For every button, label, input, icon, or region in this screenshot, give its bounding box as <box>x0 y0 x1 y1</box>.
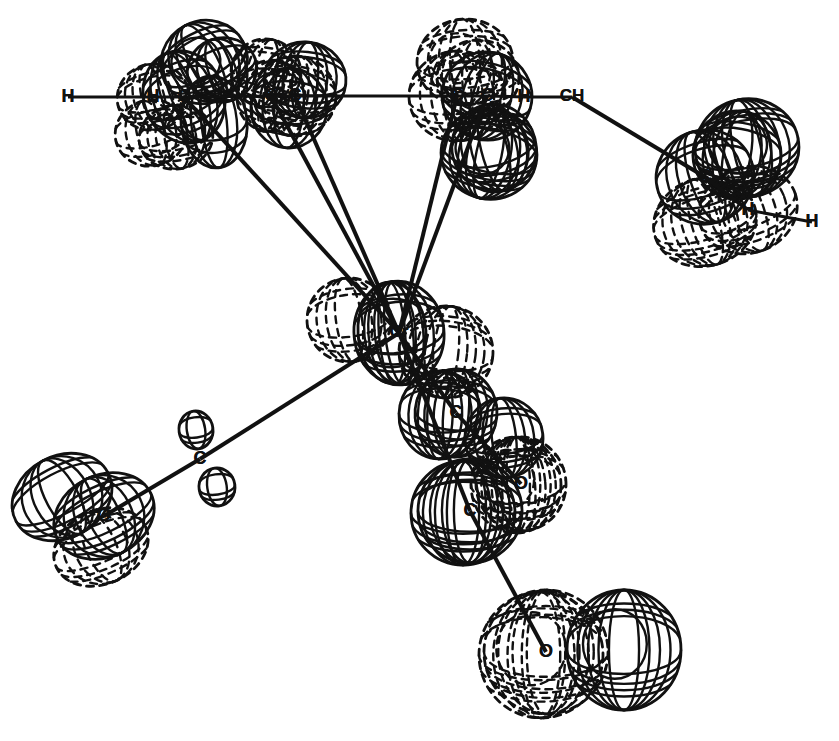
atom-label-h5: H <box>806 211 819 231</box>
atom-label-c7: C <box>194 448 207 468</box>
atom-label-c2: C <box>265 85 278 105</box>
atom-label-c1: C <box>178 86 191 106</box>
atom-label-o2: O <box>514 473 528 493</box>
atom-label-c9: C <box>464 500 477 520</box>
atom-label-h4: H <box>742 199 755 219</box>
ortep-canvas: HHHHCCCCCCCCCCHHCHCHCCHHHHCrCrCCOOCCOOCC… <box>0 0 839 741</box>
ortep-figure: HHHHCCCCCCCCCCHHCHCHCCHHHHCrCrCCOOCCOOCC… <box>0 0 839 741</box>
faint-caption <box>0 723 839 741</box>
atom-label-h2: H <box>147 86 160 106</box>
atom-label-c8: C <box>450 402 463 422</box>
atom-label-cr: Cr <box>390 322 409 341</box>
atom-label-h3: H <box>518 86 531 106</box>
atom-label-ch1: CH <box>560 86 585 105</box>
atom-label-h1: H <box>62 86 75 106</box>
atom-label-c6: C <box>699 166 712 186</box>
atom-label-c5: C <box>481 85 494 105</box>
atom-label-o3: O <box>539 641 553 661</box>
atom-label-o1: O <box>97 505 111 525</box>
atom-label-c3: C <box>289 85 302 105</box>
atom-label-c4: C <box>451 85 464 105</box>
bond-line <box>184 96 271 97</box>
